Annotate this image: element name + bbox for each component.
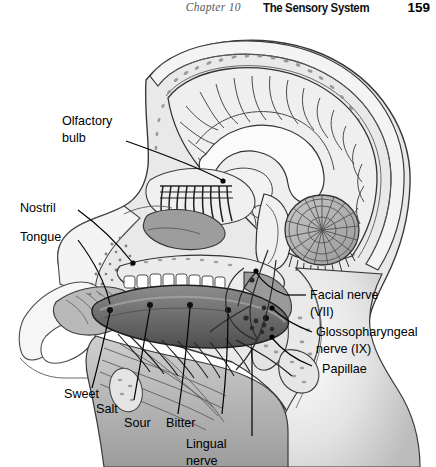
label-lingual-nerve-line2: nerve <box>186 454 218 467</box>
label-lingual-nerve-line1: Lingual <box>186 437 227 451</box>
label-glossopharyngeal-line1: Glossopharyngeal <box>316 325 418 339</box>
label-nostril: Nostril <box>20 201 56 215</box>
textbook-page: Chapter 10 The Sensory System 159 <box>0 0 436 467</box>
label-sour: Sour <box>124 416 151 430</box>
label-papillae: Papillae <box>322 362 367 376</box>
section-title: The Sensory System <box>263 0 378 15</box>
anatomy-figure: Olfactory bulb Nostril Tongue Facial ner… <box>0 18 436 467</box>
label-facial-nerve-line1: Facial nerve <box>310 288 379 302</box>
page-number: 159 <box>393 0 436 15</box>
label-facial-nerve-line2: (VII) <box>310 305 334 319</box>
label-olfactory-bulb-line2: bulb <box>62 131 86 145</box>
label-olfactory-bulb-line1: Olfactory <box>62 114 113 128</box>
label-tongue: Tongue <box>20 230 61 244</box>
label-bitter: Bitter <box>166 416 195 430</box>
label-glossopharyngeal-line2: nerve (IX) <box>316 342 371 356</box>
chapter-label: Chapter 10 <box>186 0 263 13</box>
running-head: Chapter 10 The Sensory System 159 <box>0 0 436 18</box>
label-salt: Salt <box>96 402 118 416</box>
label-sweet: Sweet <box>64 387 100 401</box>
